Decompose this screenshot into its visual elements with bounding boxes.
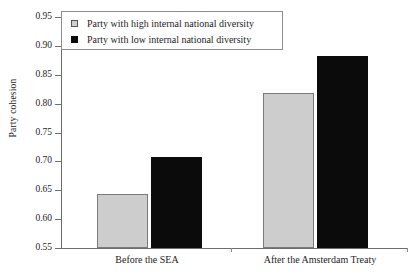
y-axis-tick-label: 0.55 (19, 243, 52, 253)
y-axis-tick-label: 0.95 (19, 12, 52, 22)
y-axis-tick-label: 0.80 (19, 99, 52, 109)
legend-swatch-black-square (71, 36, 78, 43)
y-axis-tick (55, 75, 61, 76)
y-axis-tick-label: 0.70 (19, 156, 52, 166)
y-axis-tick (55, 219, 61, 220)
y-axis-tick (55, 161, 61, 162)
bar-chart: Party cohesion 0.950.900.850.800.750.700… (0, 0, 413, 277)
y-axis-tick (55, 104, 61, 105)
y-axis-tick-label: 0.85 (19, 70, 52, 80)
y-axis-tick (55, 248, 61, 249)
legend-item-low-diversity: Party with low internal national diversi… (71, 32, 251, 46)
y-axis-tick-label: 0.65 (19, 185, 52, 195)
x-axis-line (61, 248, 408, 249)
x-axis-category-separator (407, 248, 408, 252)
bar-low-diversity-group-2 (317, 56, 368, 248)
bar-high-diversity-group-2 (263, 93, 314, 248)
y-axis-tick (55, 190, 61, 191)
y-axis-tick-label: 0.90 (19, 41, 52, 51)
legend: Party with high internal national divers… (61, 11, 283, 50)
x-axis-label-after-the-amsterdam-treaty: After the Amsterdam Treaty (232, 254, 408, 265)
y-axis-title: Party cohesion (8, 48, 18, 168)
x-axis-label-before-the-sea: Before the SEA (63, 254, 231, 265)
legend-swatch-light-gray-square (71, 20, 78, 27)
y-axis-tick-label: 0.75 (19, 128, 52, 138)
y-axis-tick (55, 133, 61, 134)
legend-label-low-diversity: Party with low internal national diversi… (87, 34, 251, 45)
y-axis-tick-label: 0.60 (19, 214, 52, 224)
y-axis-line (61, 15, 62, 249)
legend-item-high-diversity: Party with high internal national divers… (71, 16, 254, 30)
bar-low-diversity-group-1 (151, 157, 202, 248)
legend-label-high-diversity: Party with high internal national divers… (87, 18, 254, 29)
x-axis-category-separator (231, 248, 232, 252)
bar-high-diversity-group-1 (97, 194, 148, 248)
